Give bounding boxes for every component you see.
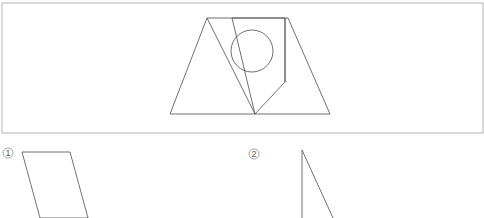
figure-panel [2,3,483,133]
screenshot-root: 1 2 [0,0,484,218]
figure-canvas: 1 2 [0,0,484,218]
figure-stage: 1 2 [0,0,484,218]
option-2-marker-label: 2 [251,149,256,159]
sliver-triangle-option[interactable] [302,150,333,218]
option-1-marker-label: 1 [5,148,10,158]
parallelogram-option[interactable] [22,152,88,218]
